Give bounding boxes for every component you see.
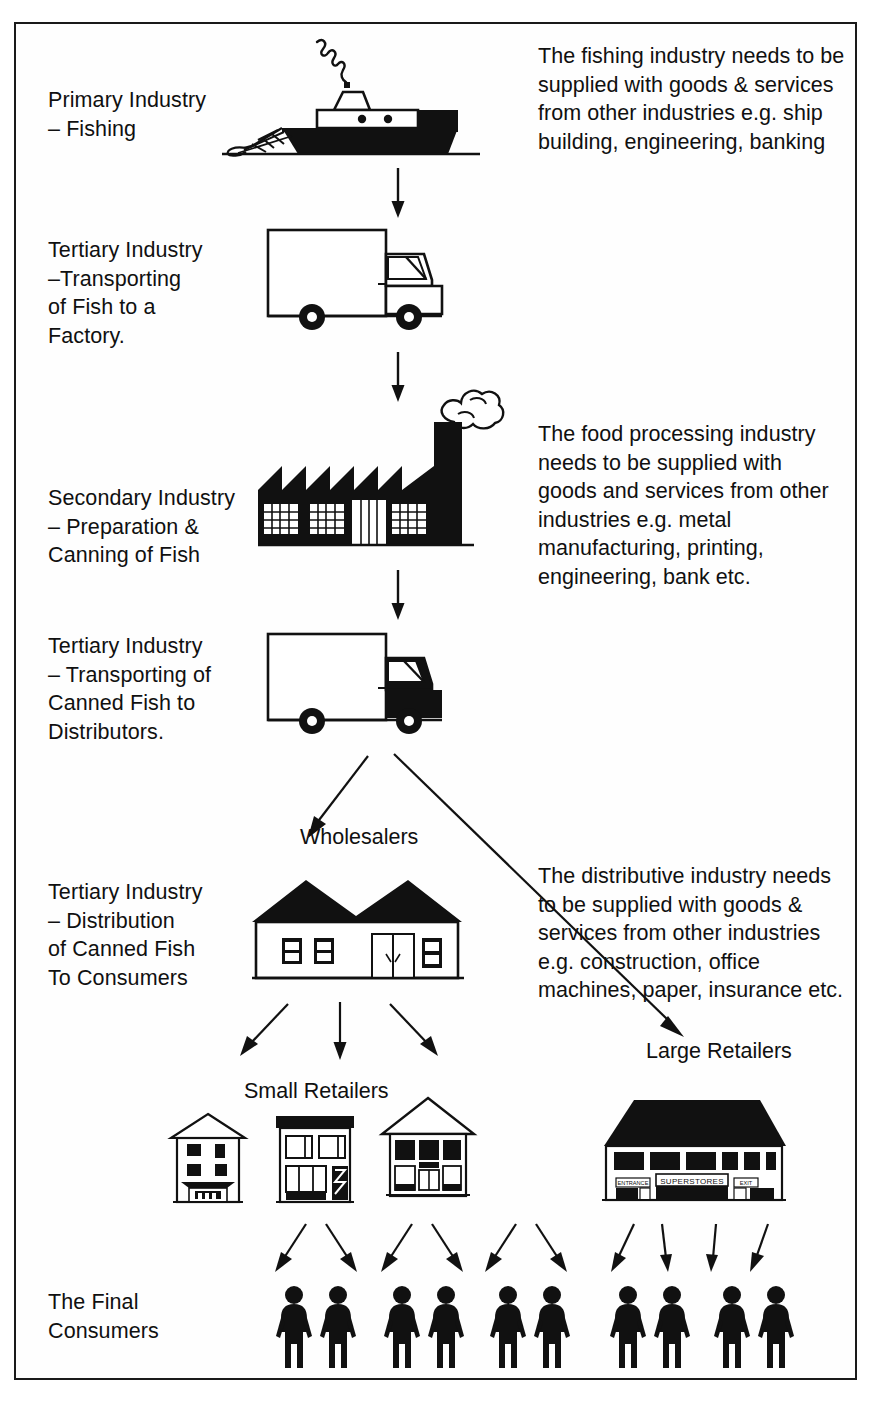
small-retailer-shop-1-icon (165, 1112, 251, 1204)
warehouse-icon (252, 870, 474, 980)
entrance-sign-text: ENTRANCE (618, 1180, 649, 1186)
caption-wholesalers: Wholesalers (300, 824, 418, 851)
large-retailer-superstore-icon: SUPERSTORES ENTRANCE EXIT (600, 1086, 792, 1204)
flow-arrow-fan-left (236, 1000, 296, 1062)
factory-icon (258, 378, 508, 560)
small-retailer-shop-3-icon (378, 1094, 478, 1204)
caption-small-retailers: Small Retailers (244, 1078, 389, 1105)
consumer-arrow-a1 (270, 1222, 314, 1276)
consumer-arrow-a2 (318, 1222, 362, 1276)
consumer-arrow-d3 (700, 1222, 730, 1276)
diagram-page: Primary Industry – Fishing (0, 0, 873, 1405)
consumer-arrow-d1 (604, 1222, 648, 1276)
caption-large-retailers: Large Retailers (646, 1038, 792, 1065)
fishing-boat-icon (222, 36, 492, 154)
exit-sign-text: EXIT (740, 1180, 753, 1186)
consumer-pair-1-icon (274, 1284, 362, 1370)
flow-arrow-down-3 (386, 570, 410, 620)
flow-arrow-fan-middle (328, 1000, 352, 1062)
consumer-arrow-b1 (376, 1222, 420, 1276)
consumer-arrow-b2 (424, 1222, 468, 1276)
consumer-arrow-d2 (650, 1222, 680, 1276)
flow-arrow-down-1 (386, 168, 410, 218)
small-retailer-shop-2-icon (272, 1106, 358, 1204)
note-food-processing: The food processing industry needs to be… (538, 420, 868, 591)
consumer-pair-2-icon (382, 1284, 470, 1370)
stage-label-final-consumers: The Final Consumers (48, 1288, 278, 1345)
delivery-truck-icon-2 (266, 628, 476, 738)
note-fishing: The fishing industry needs to be supplie… (538, 42, 858, 156)
flow-arrow-fan-right (384, 1000, 444, 1062)
delivery-truck-icon-1 (266, 224, 476, 334)
consumer-pair-5-icon (712, 1284, 800, 1370)
consumer-arrow-c2 (528, 1222, 572, 1276)
consumer-pair-4-icon (608, 1284, 696, 1370)
note-distributive: The distributive industry needs to be su… (538, 862, 868, 1005)
consumer-arrow-c1 (480, 1222, 524, 1276)
superstores-sign-text: SUPERSTORES (660, 1177, 724, 1186)
consumer-pair-3-icon (488, 1284, 576, 1370)
consumer-arrow-d4 (744, 1222, 788, 1276)
